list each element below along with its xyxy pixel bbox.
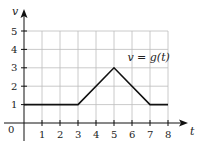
x-tick-label: 2 — [57, 129, 63, 140]
x-tick-label: 1 — [39, 129, 45, 140]
x-tick-label: 8 — [165, 129, 171, 140]
grid-lines — [24, 31, 168, 123]
x-tick-label: 5 — [111, 129, 117, 140]
y-tick-label: 5 — [11, 26, 17, 37]
annotations: v = g(t) — [127, 51, 169, 64]
x-tick-label: 4 — [93, 129, 99, 140]
curve-label: v = g(t) — [127, 51, 169, 64]
chart-canvas: 01234567812345tv v = g(t) — [0, 0, 198, 146]
x-axis-label: t — [190, 125, 195, 138]
y-tick-label: 4 — [11, 44, 17, 55]
tick-marks — [21, 31, 168, 126]
y-tick-label: 3 — [11, 62, 17, 73]
x-tick-label: 6 — [129, 129, 135, 140]
x-tick-label: 3 — [75, 129, 81, 140]
x-tick-label: 7 — [147, 129, 153, 140]
tick-labels: 01234567812345tv — [8, 5, 195, 140]
y-tick-label: 2 — [11, 81, 17, 92]
line-chart: 01234567812345tv v = g(t) — [0, 0, 198, 146]
y-tick-label: 1 — [11, 99, 17, 110]
x-tick-label: 0 — [8, 124, 14, 135]
y-axis-label: v — [12, 5, 19, 18]
